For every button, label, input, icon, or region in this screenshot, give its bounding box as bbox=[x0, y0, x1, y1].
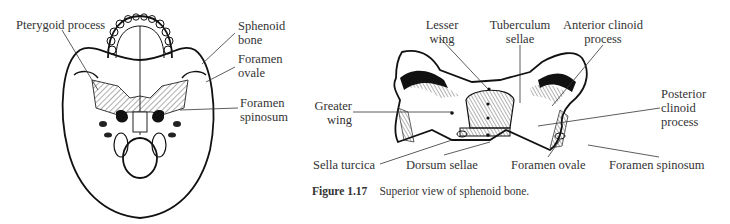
label-foramen-ovale-left-line2: ovale bbox=[238, 66, 282, 80]
label-foramen-ovale-right: Foramen ovale bbox=[511, 158, 586, 172]
label-dorsum-sellae: Dorsum sellae bbox=[406, 158, 478, 172]
label-sphenoid-bone-line1: Sphenoid bbox=[238, 19, 285, 33]
label-lesser-wing-line1: Lesser bbox=[422, 18, 462, 32]
label-tuberculum-sellae-line1: Tuberculum bbox=[487, 18, 553, 32]
label-sphenoid-bone: Sphenoid bone bbox=[238, 19, 285, 47]
label-sella-turcica: Sella turcica bbox=[313, 158, 375, 172]
label-foramen-spinosum-left: Foramen spinosum bbox=[240, 96, 288, 124]
label-tuberculum-sellae-line2: sellae bbox=[487, 32, 553, 46]
label-anterior-clinoid-process-line1: Anterior clinoid bbox=[560, 18, 646, 32]
label-posterior-clinoid-process-line1: Posterior bbox=[661, 87, 706, 101]
label-posterior-clinoid-process-line3: process bbox=[661, 115, 706, 129]
figure-number: Figure 1.17 bbox=[312, 185, 367, 197]
label-foramen-spinosum-right: Foramen spinosum bbox=[609, 158, 704, 172]
label-greater-wing: Greater wing bbox=[306, 99, 352, 127]
figure-caption-text: Superior view of sphenoid bone. bbox=[379, 185, 529, 197]
label-foramen-ovale-left-line1: Foramen bbox=[238, 52, 282, 66]
label-anterior-clinoid-process-line2: process bbox=[560, 32, 646, 46]
label-foramen-spinosum-left-line1: Foramen bbox=[240, 96, 288, 110]
label-foramen-ovale-left: Foramen ovale bbox=[238, 52, 282, 80]
label-foramen-spinosum-left-line2: spinosum bbox=[240, 110, 288, 124]
label-pterygoid-process: Pterygoid process bbox=[16, 18, 105, 32]
label-lesser-wing-line2: wing bbox=[422, 32, 462, 46]
label-greater-wing-line2: wing bbox=[306, 113, 352, 127]
figure-caption: Figure 1.17Superior view of sphenoid bon… bbox=[312, 185, 529, 197]
label-lesser-wing: Lesser wing bbox=[422, 18, 462, 46]
label-tuberculum-sellae: Tuberculum sellae bbox=[487, 18, 553, 46]
label-greater-wing-line1: Greater bbox=[306, 99, 352, 113]
label-posterior-clinoid-process-line2: clinoid bbox=[661, 101, 706, 115]
label-anterior-clinoid-process: Anterior clinoid process bbox=[560, 18, 646, 46]
label-posterior-clinoid-process: Posterior clinoid process bbox=[661, 87, 706, 129]
label-sphenoid-bone-line2: bone bbox=[238, 33, 285, 47]
